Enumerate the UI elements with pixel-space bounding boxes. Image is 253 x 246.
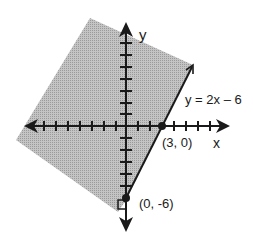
y-axis-label: y <box>139 27 147 42</box>
point-3-0 <box>158 122 166 130</box>
point-0-neg6-label: (0, -6) <box>139 197 174 210</box>
shaded-region <box>16 18 193 212</box>
line-equation-label: y = 2x – 6 <box>185 93 242 106</box>
x-axis-label: x <box>213 136 220 150</box>
graph-canvas <box>0 0 253 246</box>
point-3-0-label: (3, 0) <box>162 136 192 149</box>
